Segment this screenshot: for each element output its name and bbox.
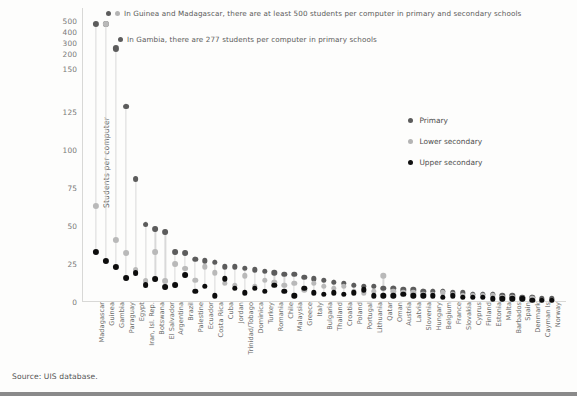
data-point-upper[interactable] [212,293,217,298]
data-point-upper[interactable] [470,294,475,299]
data-point-upper[interactable] [500,296,505,301]
data-column: Iran, Isl. Rep. [141,8,151,302]
data-point-primary[interactable] [172,249,178,255]
data-point-lower[interactable] [311,281,316,286]
x-tick-label: Cuba [227,302,235,319]
data-point-primary[interactable] [113,46,119,52]
data-point-primary[interactable] [232,264,237,269]
data-point-primary[interactable] [282,272,287,277]
data-point-primary[interactable] [212,259,217,264]
data-column: Jordan [230,8,240,302]
data-point-primary[interactable] [192,256,197,261]
data-point-upper[interactable] [520,296,525,301]
data-point-upper[interactable] [133,270,139,276]
data-point-upper[interactable] [460,294,465,299]
data-point-upper[interactable] [321,291,326,296]
legend-item-upper-secondary[interactable]: Upper secondary [408,152,482,173]
data-point-upper[interactable] [153,276,159,282]
data-point-upper[interactable] [242,290,247,295]
data-point-primary[interactable] [123,103,129,109]
data-point-primary[interactable] [93,21,99,27]
data-point-primary[interactable] [292,272,297,277]
connector-stem [135,176,136,270]
data-point-primary[interactable] [133,176,139,182]
data-point-upper[interactable] [292,293,297,298]
data-point-lower[interactable] [162,278,168,284]
data-point-lower[interactable] [341,284,346,289]
data-point-upper[interactable] [222,276,227,281]
data-point-lower[interactable] [172,261,178,267]
data-point-primary[interactable] [262,269,267,274]
data-point-upper[interactable] [123,275,129,281]
data-point-lower[interactable] [292,281,297,286]
data-point-primary[interactable] [301,275,306,280]
data-column: Oman [388,8,398,302]
data-point-primary[interactable] [331,279,336,284]
data-point-upper[interactable] [391,293,396,298]
data-point-upper[interactable] [381,293,386,298]
data-point-primary[interactable] [153,226,159,232]
data-point-upper[interactable] [192,288,197,293]
legend-item-lower-secondary[interactable]: Lower secondary [408,131,482,152]
data-point-upper[interactable] [401,291,406,296]
data-point-upper[interactable] [351,290,356,295]
data-point-lower[interactable] [153,249,159,255]
data-point-upper[interactable] [311,290,316,295]
data-point-primary[interactable] [252,267,257,272]
data-point-primary[interactable] [381,285,386,290]
data-point-lower[interactable] [192,278,197,283]
data-point-primary[interactable] [272,270,277,275]
data-point-lower[interactable] [242,273,247,278]
data-point-upper[interactable] [172,282,178,288]
data-point-upper[interactable] [510,296,515,301]
data-point-primary[interactable] [202,258,207,263]
data-point-upper[interactable] [162,284,168,290]
data-point-upper[interactable] [480,294,485,299]
data-point-upper[interactable] [202,284,207,289]
x-tick-label: Thailand [336,302,344,331]
data-point-upper[interactable] [341,291,346,296]
data-point-lower[interactable] [381,273,386,278]
data-point-upper[interactable] [440,294,445,299]
data-column: Madagascar [91,8,101,302]
data-point-upper[interactable] [272,282,277,287]
annotation-277-text: In Gambia, there are 277 students per co… [127,35,377,44]
data-point-upper[interactable] [331,290,336,295]
data-point-upper[interactable] [93,249,99,255]
data-point-primary[interactable] [143,221,149,227]
legend-item-primary[interactable]: Primary [408,110,482,131]
data-point-upper[interactable] [430,293,435,298]
data-column: Trinidad/Tobago [240,8,250,302]
data-point-upper[interactable] [420,293,425,298]
data-point-primary[interactable] [162,229,168,235]
data-point-upper[interactable] [282,288,287,293]
connector-stem [125,103,126,274]
data-point-primary[interactable] [242,266,247,271]
data-point-upper[interactable] [252,285,257,290]
data-point-primary[interactable] [321,278,326,283]
data-point-lower[interactable] [321,284,326,289]
data-point-upper[interactable] [143,282,149,288]
data-point-lower[interactable] [93,203,99,209]
data-point-lower[interactable] [182,266,188,272]
data-point-lower[interactable] [262,278,267,283]
data-point-upper[interactable] [232,285,237,290]
data-point-upper[interactable] [103,258,109,264]
data-point-lower[interactable] [123,250,129,256]
data-point-lower[interactable] [212,270,217,275]
data-point-upper[interactable] [182,272,188,278]
data-point-upper[interactable] [113,264,119,270]
data-point-upper[interactable] [490,296,495,301]
data-point-upper[interactable] [411,293,416,298]
data-point-lower[interactable] [103,21,109,27]
data-point-primary[interactable] [222,264,227,269]
data-point-primary[interactable] [351,282,356,287]
data-point-upper[interactable] [371,293,376,298]
data-point-lower[interactable] [113,237,119,243]
data-point-upper[interactable] [450,293,455,298]
data-point-upper[interactable] [262,288,267,293]
data-point-lower[interactable] [222,281,227,286]
data-point-lower[interactable] [282,282,287,287]
data-point-primary[interactable] [182,250,188,256]
data-point-lower[interactable] [202,264,207,269]
